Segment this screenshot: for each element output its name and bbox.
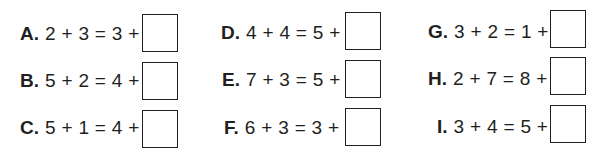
answer-box-g[interactable] [550,10,586,48]
answer-box-e[interactable] [345,60,381,98]
answer-box-h[interactable] [550,57,586,95]
answer-box-i[interactable] [550,105,586,143]
problem-expression: 6 + 3 = 3 + [245,117,340,139]
problem-f: F. 6 + 3 = 3 + [224,108,339,148]
problem-expression: 2 + 7 = 8 + [453,68,548,90]
problem-label: I. [437,116,448,138]
problem-expression: 3 + 4 = 5 + [454,116,549,138]
answer-box-d[interactable] [345,12,381,50]
problem-h: H. 2 + 7 = 8 + [428,59,548,99]
problem-d: D. 4 + 4 = 5 + [221,13,341,53]
problem-label: G. [428,21,448,43]
problem-expression: 7 + 3 = 5 + [246,69,341,91]
problem-expression: 5 + 2 = 4 + [45,70,140,92]
answer-box-f[interactable] [345,108,381,146]
problem-label: H. [428,68,447,90]
problem-b: B. 5 + 2 = 4 + [20,61,140,101]
problem-label: E. [222,69,240,91]
problem-e: E. 7 + 3 = 5 + [222,60,341,100]
problem-g: G. 3 + 2 = 1 + [428,12,549,52]
problem-expression: 2 + 3 = 3 + [45,23,140,45]
problem-label: A. [20,23,39,45]
problem-expression: 3 + 2 = 1 + [454,21,549,43]
problem-c: C. 5 + 1 = 4 + [20,108,140,148]
problem-label: F. [224,117,239,139]
problem-expression: 5 + 1 = 4 + [45,117,140,139]
problem-expression: 4 + 4 = 5 + [246,22,341,44]
answer-box-a[interactable] [142,14,178,52]
answer-box-c[interactable] [142,110,178,148]
problem-label: B. [20,70,39,92]
problem-a: A. 2 + 3 = 3 + [20,14,140,54]
problem-label: C. [20,117,39,139]
answer-box-b[interactable] [142,62,178,100]
problem-label: D. [221,22,240,44]
problem-i: I. 3 + 4 = 5 + [437,107,548,147]
